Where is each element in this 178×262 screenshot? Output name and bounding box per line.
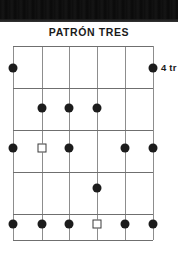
marker-hollow-r2-s2 bbox=[38, 144, 47, 153]
marker-filled-r1-s4 bbox=[93, 104, 102, 113]
marker-filled-r2-s5 bbox=[121, 144, 130, 153]
marker-filled-r0-s6 bbox=[149, 64, 158, 73]
fret-line-1 bbox=[13, 88, 153, 89]
fret-line-0 bbox=[13, 46, 153, 47]
marker-filled-r1-s3 bbox=[65, 104, 74, 113]
marker-filled-r0-s1 bbox=[9, 64, 18, 73]
fret-line-5 bbox=[13, 240, 153, 241]
fret-line-2 bbox=[13, 130, 153, 131]
marker-filled-r2-s6 bbox=[149, 144, 158, 153]
fret-line-3 bbox=[13, 172, 153, 173]
marker-filled-r2-s3 bbox=[65, 144, 74, 153]
marker-filled-r4-s6 bbox=[149, 220, 158, 229]
string-line-4 bbox=[97, 46, 98, 240]
fret-position-label: 4 tr bbox=[161, 62, 177, 73]
marker-filled-r2-s1 bbox=[9, 144, 18, 153]
fret-line-4 bbox=[13, 214, 153, 215]
marker-hollow-r4-s4 bbox=[93, 220, 102, 229]
marker-filled-r1-s2 bbox=[38, 104, 47, 113]
marker-filled-r4-s2 bbox=[38, 220, 47, 229]
marker-filled-r4-s5 bbox=[121, 220, 130, 229]
marker-filled-r4-s3 bbox=[65, 220, 74, 229]
marker-filled-r3-s4 bbox=[93, 184, 102, 193]
marker-filled-r4-s1 bbox=[9, 220, 18, 229]
fretboard-grid bbox=[0, 0, 178, 262]
pattern-diagram-page: PATRÓN TRES 4 tr bbox=[0, 0, 178, 262]
